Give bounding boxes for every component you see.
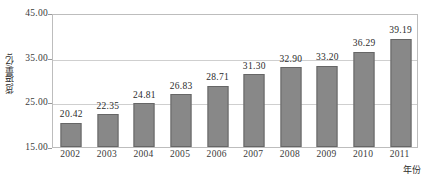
x-axis-tick-label: 2002 [60,150,80,160]
bar[interactable] [280,67,301,147]
x-axis-tick-label: 2004 [133,150,153,160]
bar-group: 26.83 [163,15,200,147]
x-axis-tick-label: 2009 [316,150,336,160]
bar-group: 20.42 [53,15,90,147]
y-axis-tick-mark [48,103,52,104]
bar[interactable] [207,86,228,147]
x-axis-tick-label: 2007 [243,150,263,160]
bar-group: 22.35 [90,15,127,147]
y-axis-tick-label: 35.00 [4,54,48,64]
x-axis-tick-label: 2005 [170,150,190,160]
plot-area: 20.4222.3524.8126.8328.7131.3032.9033.20… [52,14,418,148]
y-axis-tick-mark [48,148,52,149]
bar-value-label: 28.71 [206,73,229,83]
bar-value-label: 22.35 [96,102,119,112]
x-axis-tick-label: 2010 [353,150,373,160]
bar-value-label: 32.90 [279,55,302,65]
bar[interactable] [354,52,375,147]
bar[interactable] [171,94,192,147]
bar-value-label: 36.29 [353,39,376,49]
x-axis-tick-label: 2008 [280,150,300,160]
y-axis-tick-label: 15.00 [4,143,48,153]
y-axis-tick-labels: 45.0035.0025.0015.00 [0,0,48,190]
x-axis-tick-label: 2003 [97,150,117,160]
bar[interactable] [97,114,118,147]
bar-group: 31.30 [236,15,273,147]
y-axis-tick-label: 25.00 [4,98,48,108]
bar-group: 33.20 [309,15,346,147]
bar-value-label: 31.30 [243,62,266,72]
bar-value-label: 24.81 [133,91,156,101]
bar-value-label: 39.19 [389,26,412,36]
bar-chart: 货运量/亿t 45.0035.0025.0015.00 20.4222.3524… [0,0,427,190]
bar-value-label: 33.20 [316,53,339,63]
bar-group: 36.29 [346,15,383,147]
bar-group: 24.81 [126,15,163,147]
bar[interactable] [317,66,338,147]
bar[interactable] [244,74,265,147]
x-axis-tick-label: 2011 [390,150,410,160]
bar-group: 39.19 [382,15,419,147]
x-axis-tick-label: 2006 [207,150,227,160]
x-axis-title: 年份 [403,166,421,175]
bar-value-label: 26.83 [170,82,193,92]
bar-value-label: 20.42 [60,110,83,120]
bar[interactable] [390,39,411,147]
y-axis-tick-mark [48,14,52,15]
bar[interactable] [134,103,155,147]
y-axis-tick-label: 45.00 [4,9,48,19]
bar-group: 32.90 [273,15,310,147]
bar-group: 28.71 [199,15,236,147]
bars-layer: 20.4222.3524.8126.8328.7131.3032.9033.20… [53,15,417,147]
bar[interactable] [61,123,82,147]
y-axis-tick-mark [48,59,52,60]
x-axis-tick-labels: 2002200320042005200620072008200920102011 [52,150,418,166]
